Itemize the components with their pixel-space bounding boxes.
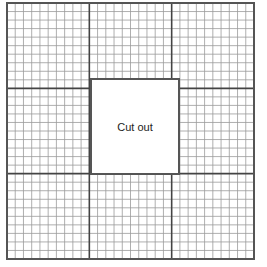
cutout-region: Cut out bbox=[90, 78, 180, 175]
cutout-label: Cut out bbox=[117, 121, 152, 133]
